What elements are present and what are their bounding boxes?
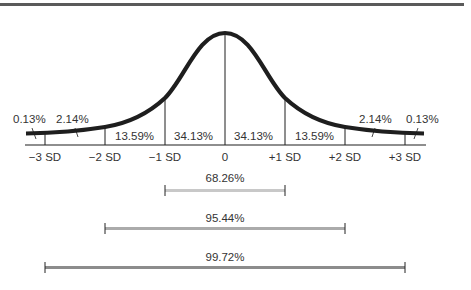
range-label-2sd: 95.44% [205, 212, 244, 224]
tick-label-plus-3sd: +3 SD [389, 151, 421, 163]
range-bar-2sd: 95.44% [105, 212, 345, 234]
label-left-tail: 0.13% [13, 113, 46, 125]
label-right-1-2: 13.59% [295, 130, 334, 142]
range-label-1sd: 68.26% [205, 172, 244, 184]
tick-label-minus-3sd: −3 SD [29, 151, 61, 163]
tick-label-plus-1sd: +1 SD [269, 151, 301, 163]
label-left-1-2: 13.59% [115, 130, 154, 142]
range-bar-3sd: 99.72% [45, 251, 405, 273]
label-left-2-3: 2.14% [56, 113, 89, 125]
label-right-tail: 0.13% [406, 113, 439, 125]
normal-distribution-diagram: 0.13% 2.14% 13.59% 34.13% 34.13% 13.59% … [0, 0, 471, 290]
tick-label-minus-1sd: −1 SD [149, 151, 181, 163]
tick-label-plus-2sd: +2 SD [329, 151, 361, 163]
label-right-2-3: 2.14% [359, 113, 392, 125]
tick-label-minus-2sd: −2 SD [89, 151, 121, 163]
range-label-3sd: 99.72% [205, 251, 244, 263]
range-bar-1sd: 68.26% [165, 172, 285, 196]
tick-label-mean: 0 [222, 151, 228, 163]
label-right-0-1: 34.13% [234, 130, 273, 142]
label-left-0-1: 34.13% [174, 130, 213, 142]
